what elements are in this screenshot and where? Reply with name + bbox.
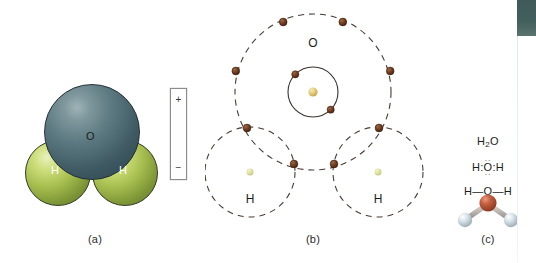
electron-oxygen-outer-4 (386, 67, 394, 75)
ball-stick-hydrogen-left (458, 213, 472, 227)
electron-oxygen-outer-1 (279, 18, 287, 26)
figure-root: O H H (a) + − (0, 0, 536, 263)
bohr-hydrogen-right-label: H (374, 192, 383, 206)
page-edge-bar (517, 0, 536, 36)
electron-bonding-right-lower (330, 160, 338, 168)
molecular-formula-o: O (490, 135, 499, 147)
bohr-hydrogen-left-label: H (246, 192, 255, 206)
lewis-dots-bottom: ·· (485, 171, 492, 178)
oxygen-nucleus (308, 87, 317, 96)
ball-and-stick-svg (454, 192, 522, 228)
hydrogen-right-nucleus (375, 169, 382, 176)
molecular-formula: H2O (448, 136, 528, 149)
panel-c-caption: (c) (455, 233, 521, 245)
panel-a-space-filling-model: O H H (20, 78, 170, 238)
space-filling-hydrogen-left-label: H (51, 164, 59, 176)
electron-oxygen-outer-3 (232, 67, 240, 75)
electron-oxygen-outer-2 (339, 18, 347, 26)
lewis-dots-top: ·· (485, 157, 492, 164)
lewis-left-h: H: (472, 161, 484, 173)
plus-sign-label: + (171, 95, 186, 105)
bohr-diagram-svg: O H H (205, 0, 435, 240)
electron-bonding-right-upper (375, 124, 383, 132)
panel-b-bohr-diagram: O H H (205, 0, 435, 240)
ball-stick-oxygen (479, 194, 496, 211)
bohr-oxygen-label: O (308, 36, 317, 50)
electron-oxygen-inner-2 (327, 106, 334, 113)
space-filling-oxygen-label: O (86, 130, 95, 142)
electron-bonding-left-upper (243, 124, 251, 132)
polarity-indicator: + − (170, 88, 187, 180)
lewis-dot-formula: H:··O··:H (448, 162, 528, 173)
panel-a-caption: (a) (62, 233, 128, 245)
space-filling-hydrogen-right-label: H (119, 164, 127, 176)
panel-b-caption: (b) (280, 233, 346, 245)
ball-and-stick-model (454, 192, 522, 228)
hydrogen-left-nucleus (247, 169, 254, 176)
minus-sign-label: − (171, 163, 186, 173)
lewis-oxygen-group: ··O·· (484, 162, 493, 173)
panel-c-formulas: H2O H:··O··:H H—O—H (448, 136, 528, 246)
lewis-right-h: :H (492, 161, 504, 173)
page-edge-rule (517, 36, 518, 263)
electron-bonding-left-lower (290, 160, 298, 168)
electron-oxygen-inner-1 (292, 71, 299, 78)
